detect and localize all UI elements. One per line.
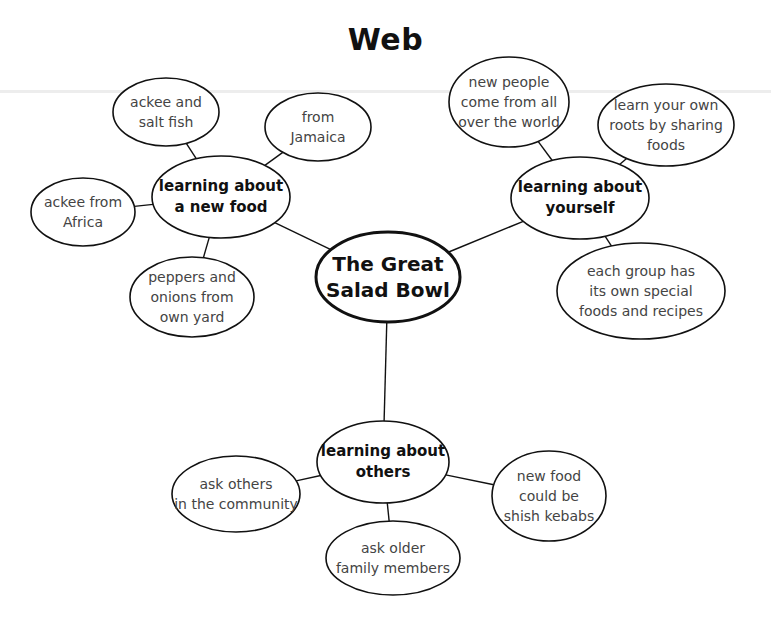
- hub-new-food-label: learning about a new food: [152, 156, 290, 238]
- leaf-each-group-label: each group has its own special foods and…: [557, 243, 725, 339]
- leaf-ackee-saltfish-label: ackee and salt fish: [113, 78, 219, 146]
- connector-hub-others-to-leaf-ask-older: [387, 503, 389, 521]
- leaf-new-people-label: new people come from all over the world: [449, 57, 569, 147]
- leaf-ask-community-label: ask others in the community: [172, 456, 300, 532]
- leaf-own-roots-label: learn your own roots by sharing foods: [598, 84, 734, 166]
- leaf-ackee-africa-label: ackee from Africa: [31, 178, 135, 246]
- connector-hub-new-food-to-leaf-ackee-africa: [134, 204, 153, 206]
- connector-hub-others-to-leaf-shish-kebabs: [446, 475, 494, 485]
- connector-center-to-hub-others: [384, 322, 387, 421]
- leaf-shish-kebabs-label: new food could be shish kebabs: [492, 451, 606, 541]
- leaf-peppers-onions-label: peppers and onions from own yard: [130, 257, 254, 337]
- hub-others-label: learning about others: [317, 421, 449, 503]
- connector-hub-new-food-to-leaf-peppers-onions: [203, 237, 209, 257]
- hub-yourself-label: learning about yourself: [511, 157, 649, 239]
- center-node-label: The Great Salad Bowl: [316, 232, 460, 322]
- leaf-ask-older-label: ask older family members: [326, 521, 460, 595]
- leaf-from-jamaica-label: from Jamaica: [265, 93, 371, 161]
